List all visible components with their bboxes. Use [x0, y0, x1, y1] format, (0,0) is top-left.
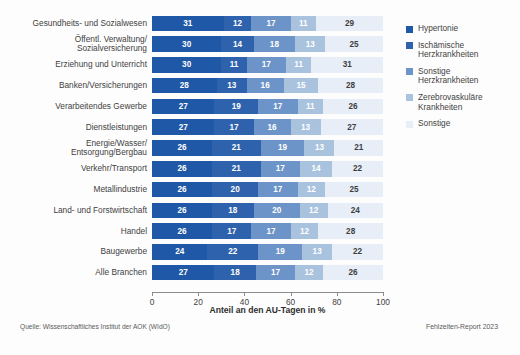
- bar-segment-value: 26: [177, 227, 186, 236]
- bar-segment: 13: [304, 140, 334, 156]
- legend-label: Hypertonie: [418, 24, 458, 34]
- bar-segment-value: 28: [346, 81, 355, 90]
- bar-segment: 21: [334, 140, 383, 156]
- bar-segment-value: 21: [354, 143, 363, 152]
- legend-label: Sonstige Herzkrankheiten: [418, 67, 478, 86]
- bar-segment-value: 30: [182, 60, 191, 69]
- category-label: Verkehr/Transport: [0, 164, 152, 173]
- bar-row: Alle Branchen2718171226: [0, 263, 520, 282]
- legend-item[interactable]: Ischämische Herzkrankheiten: [406, 41, 518, 60]
- bar-segment: 12: [295, 265, 323, 281]
- bar-segment: 25: [325, 182, 383, 198]
- bar-segment-value: 30: [182, 40, 191, 49]
- bar-segment-value: 22: [228, 247, 237, 256]
- bar-segment-value: 27: [179, 102, 188, 111]
- bar-segment: 26: [152, 161, 212, 177]
- bar-track: 2813161528: [152, 78, 383, 94]
- bar-track: 2719171126: [152, 99, 383, 115]
- bar-segment: 24: [152, 244, 207, 260]
- bar-segment: 12: [291, 223, 319, 239]
- bar-segment: 27: [152, 99, 214, 115]
- bar-segment: 17: [212, 223, 251, 239]
- bar-segment: 22: [207, 244, 258, 260]
- bar-segment: 25: [325, 36, 383, 52]
- category-label: Metallindustrie: [0, 185, 152, 194]
- bar-segment: 22: [332, 161, 383, 177]
- bar-segment-value: 21: [232, 164, 241, 173]
- legend-item[interactable]: Hypertonie: [406, 24, 518, 34]
- legend-item[interactable]: Sonstige Herzkrankheiten: [406, 67, 518, 86]
- bar-row: Land- und Forstwirtschaft2618201224: [0, 201, 520, 220]
- bar-segment-value: 13: [315, 143, 324, 152]
- category-label: Dienstleistungen: [0, 123, 152, 132]
- bar-segment-value: 26: [348, 102, 357, 111]
- bar-track: 2620171225: [152, 182, 383, 198]
- bar-segment-value: 11: [230, 60, 239, 69]
- bar-segment-value: 31: [343, 60, 352, 69]
- bar-segment: 20: [254, 203, 300, 219]
- legend-swatch-icon: [406, 121, 413, 128]
- x-axis-line: [152, 292, 383, 293]
- bar-segment-value: 13: [301, 123, 310, 132]
- x-axis: 020406080100: [152, 292, 383, 293]
- bar-segment-value: 20: [272, 206, 281, 215]
- bar-segment: 28: [318, 223, 383, 239]
- bar-segment: 17: [261, 161, 300, 177]
- bar-segment: 22: [332, 244, 383, 260]
- bar-segment: 19: [261, 140, 305, 156]
- bar-segment-value: 27: [179, 123, 188, 132]
- chart-legend: HypertonieIschämische HerzkrankheitenSon…: [406, 24, 518, 136]
- bar-segment-value: 22: [353, 247, 362, 256]
- bar-segment-value: 12: [233, 19, 242, 28]
- bar-segment: 27: [152, 265, 214, 281]
- category-label: Banken/Versicherungen: [0, 81, 152, 90]
- category-label: Baugewerbe: [0, 247, 152, 256]
- bar-segment: 18: [214, 265, 256, 281]
- bar-segment: 12: [298, 182, 326, 198]
- bar-segment-value: 27: [179, 268, 188, 277]
- x-axis-tick: [383, 292, 384, 296]
- bar-segment: 26: [152, 140, 212, 156]
- bar-segment: 11: [221, 57, 246, 73]
- bar-segment-value: 14: [233, 40, 242, 49]
- legend-swatch-icon: [406, 26, 413, 33]
- bar-segment: 26: [152, 182, 212, 198]
- bar-row: Energie/Wasser/ Entsorgung/Bergbau262119…: [0, 139, 520, 158]
- bar-segment-value: 24: [175, 247, 184, 256]
- x-axis-tick: [198, 292, 199, 296]
- bar-segment-value: 17: [273, 102, 282, 111]
- bar-segment: 28: [152, 78, 217, 94]
- bar-segment: 31: [152, 16, 224, 32]
- bar-segment-value: 17: [266, 227, 275, 236]
- bar-segment: 19: [258, 244, 302, 260]
- category-label: Verarbeitendes Gewerbe: [0, 102, 152, 111]
- bar-segment: 16: [254, 119, 291, 135]
- x-axis-tick: [337, 292, 338, 296]
- bar-segment: 27: [152, 119, 214, 135]
- bar-segment: 26: [323, 265, 383, 281]
- bar-segment-value: 21: [232, 143, 241, 152]
- bar-segment-value: 16: [268, 123, 277, 132]
- bar-segment: 14: [300, 161, 332, 177]
- footer-report: Fehlzeiten-Report 2023: [426, 323, 498, 330]
- bar-segment: 12: [224, 16, 252, 32]
- bar-segment-value: 26: [348, 268, 357, 277]
- bar-row: Verkehr/Transport2621171422: [0, 159, 520, 178]
- bar-track: 2617171228: [152, 223, 383, 239]
- category-label: Handel: [0, 227, 152, 236]
- bar-segment: 19: [214, 99, 258, 115]
- bar-segment-value: 17: [273, 185, 282, 194]
- x-axis-tick: [291, 292, 292, 296]
- bar-segment: 13: [302, 244, 332, 260]
- bar-segment: 17: [258, 182, 297, 198]
- bar-segment: 11: [286, 57, 311, 73]
- bar-segment-value: 11: [294, 60, 303, 69]
- bar-segment-value: 27: [347, 123, 356, 132]
- legend-item[interactable]: Zerebrovaskuläre Krankheiten: [406, 93, 518, 112]
- bar-track: 2717161327: [152, 119, 383, 135]
- legend-item[interactable]: Sonstige: [406, 119, 518, 129]
- bar-segment: 27: [321, 119, 383, 135]
- bar-segment-value: 25: [350, 40, 359, 49]
- legend-label: Ischämische Herzkrankheiten: [418, 41, 478, 60]
- bar-segment-value: 25: [350, 185, 359, 194]
